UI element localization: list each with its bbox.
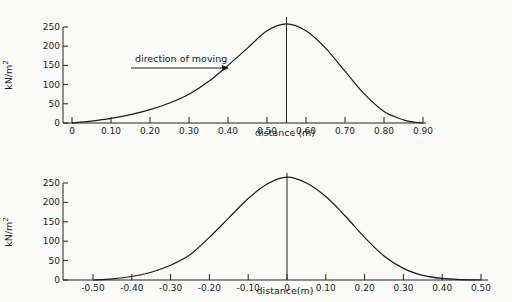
- x-tick-label: 0.10: [101, 126, 121, 136]
- y-tick-label: 0: [54, 275, 60, 285]
- y-tick-label: 100: [43, 236, 60, 246]
- y-tick-label: 100: [43, 80, 60, 90]
- pressure-curve: [72, 24, 423, 123]
- superscript: 2: [2, 60, 10, 64]
- x-tick-label: 0.30: [393, 283, 413, 293]
- x-tick-label: -0.30: [159, 283, 183, 293]
- y-tick-label: 200: [43, 197, 60, 207]
- x-tick-label: 0.20: [355, 283, 375, 293]
- x-tick-label: -0.20: [198, 283, 222, 293]
- y-tick-label: 200: [43, 41, 60, 51]
- y-tick-label: 250: [43, 178, 60, 188]
- y-tick-label: 150: [43, 60, 60, 70]
- x-tick-label: 0.50: [471, 283, 491, 293]
- x-tick-label: -0.40: [120, 283, 144, 293]
- x-axis-label: distance(m): [257, 285, 314, 296]
- y-axis-label: kN/m2: [2, 217, 14, 247]
- figure: 05010015020025000.100.200.300.400.500.60…: [0, 0, 512, 302]
- x-tick-label: 0.20: [140, 126, 160, 136]
- y-tick-label: 50: [49, 256, 61, 266]
- x-tick-label: 0.10: [316, 283, 336, 293]
- chart-bottom: 050100150200250-0.50-0.40-0.30-0.20-0.10…: [2, 173, 491, 296]
- x-tick-label: 0.90: [413, 126, 433, 136]
- annotation-text: direction of moving: [135, 53, 227, 64]
- x-tick-label: 0.40: [218, 126, 238, 136]
- y-tick-label: 150: [43, 217, 60, 227]
- x-tick-label: 0.30: [179, 126, 199, 136]
- x-tick-label: 0.80: [374, 126, 394, 136]
- x-tick-label: 0.40: [432, 283, 452, 293]
- y-tick-label: 0: [54, 118, 60, 128]
- x-axis-label: distance (m): [255, 127, 315, 138]
- x-tick-label: 0.70: [335, 126, 355, 136]
- y-tick-label: 250: [43, 22, 60, 32]
- x-tick-label: -0.50: [81, 283, 105, 293]
- chart-top: 05010015020025000.100.200.300.400.500.60…: [2, 17, 433, 138]
- superscript: 2: [2, 217, 10, 221]
- y-axis-label: kN/m2: [2, 60, 14, 90]
- x-tick-label: 0: [69, 126, 75, 136]
- y-tick-label: 50: [49, 99, 61, 109]
